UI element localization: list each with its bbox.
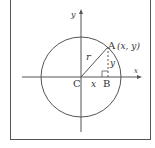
x-axis-arrow-icon <box>137 75 142 79</box>
x-axis-label: x <box>134 67 138 75</box>
y-axis-label: y <box>70 10 76 19</box>
center-label: C <box>73 78 81 89</box>
radius-label: r <box>86 51 92 62</box>
y-axis-arrow-icon <box>79 9 83 14</box>
unit-circle-diagram: y x A (x, y) C B r x y <box>0 0 155 148</box>
point-b-label: B <box>103 78 110 89</box>
horizontal-leg-label: x <box>91 79 96 89</box>
right-angle-icon <box>102 71 108 77</box>
vertical-leg-label: y <box>109 58 116 68</box>
point-a-label: A <box>107 40 116 51</box>
point-a-coords: (x, y) <box>117 41 140 51</box>
